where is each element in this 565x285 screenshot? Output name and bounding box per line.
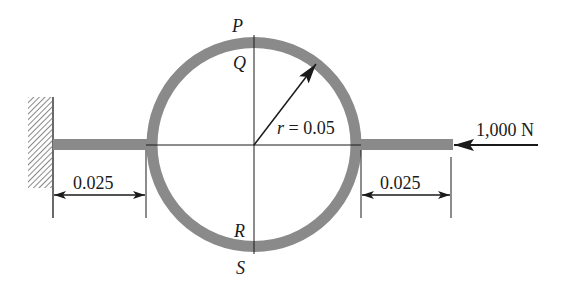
fixed-wall bbox=[28, 97, 52, 188]
label-point-p: P bbox=[231, 16, 243, 36]
label-point-s: S bbox=[236, 258, 245, 278]
left-bar bbox=[53, 139, 149, 150]
right-bar bbox=[359, 139, 453, 150]
label-point-r: R bbox=[233, 221, 245, 241]
label-point-q: Q bbox=[233, 53, 246, 73]
radius-label: r = 0.05 bbox=[277, 118, 335, 138]
right-dimension-label: 0.025 bbox=[380, 173, 421, 193]
ring-diagram: P Q R S r = 0.05 0.025 0.025 1,000 N bbox=[0, 0, 565, 285]
radius-value: = 0.05 bbox=[284, 118, 335, 138]
force-label: 1,000 N bbox=[476, 120, 534, 140]
left-dimension-label: 0.025 bbox=[73, 173, 114, 193]
